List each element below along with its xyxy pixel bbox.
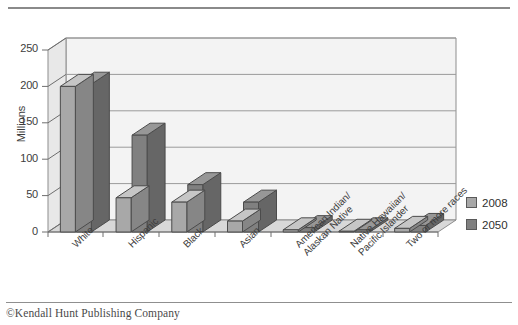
top-divider-rule	[8, 7, 510, 9]
publisher-credit: ©Kendall Hunt Publishing Company	[6, 307, 180, 319]
bottom-divider-rule	[6, 302, 512, 303]
y-tick-label: 250	[4, 42, 38, 54]
y-axis-title: Millions	[15, 89, 27, 159]
chart-canvas	[0, 10, 518, 300]
bar-2008-0	[60, 74, 93, 232]
y-tick-label: 50	[4, 188, 38, 200]
y-tick-label: 0	[4, 225, 38, 237]
legend-label: 2008	[482, 197, 508, 209]
legend-swatch-icon	[466, 219, 477, 230]
legend-item-2008[interactable]: 2008	[466, 194, 514, 211]
chart-legend: 20082050	[466, 194, 514, 238]
bar-chart: 0 50 100 150 200 250 Millions WhiteHispa…	[0, 10, 518, 300]
legend-label: 2050	[482, 219, 508, 231]
legend-swatch-icon	[466, 197, 477, 208]
legend-item-2050[interactable]: 2050	[466, 216, 514, 233]
